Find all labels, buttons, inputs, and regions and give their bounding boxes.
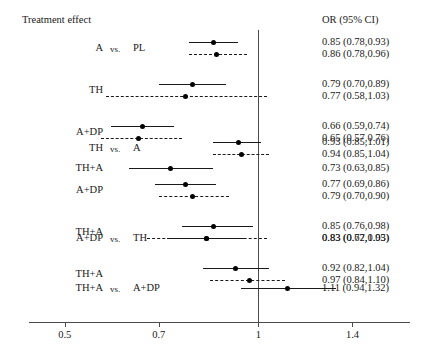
comparator-name: TH	[133, 232, 147, 243]
x-tick-label-1.4: 1.4	[346, 329, 359, 340]
treatment-name: TH+A	[0, 162, 103, 173]
or-ci-value: 0.79 (0.70,0.90)	[322, 190, 389, 201]
point-estimate-marker	[239, 152, 244, 157]
comparator-name: PL	[133, 42, 145, 53]
or-ci-value: 0.86 (0.78,0.96)	[322, 48, 389, 59]
x-tick-label-0.5: 0.5	[58, 329, 71, 340]
row-label-a-dp: A+DPvs.TH	[0, 232, 160, 245]
point-estimate-marker	[168, 166, 173, 171]
x-tick-1	[258, 322, 259, 327]
point-estimate-marker	[190, 194, 195, 199]
versus-text: vs.	[110, 44, 120, 54]
point-estimate-marker	[211, 224, 216, 229]
row-label-th-a: TH+Avs.A+DP	[0, 282, 160, 295]
point-estimate-marker	[183, 182, 188, 187]
or-ci-value: 0.85 (0.78,0.93)	[322, 36, 389, 47]
treatment-name: A	[0, 42, 103, 53]
row-label-a: Avs.PL	[0, 42, 160, 55]
or-ci-value: 0.79 (0.70,0.89)	[322, 78, 389, 89]
column-header-or-ci: OR (95% CI)	[322, 14, 379, 25]
or-ci-value: 0.94 (0.85,1.04)	[322, 148, 389, 159]
x-tick-0.5	[65, 322, 66, 327]
row-label-a-dp: A+DP	[0, 184, 160, 197]
ci-bar-dashed	[101, 138, 181, 139]
treatment-name: A+DP	[0, 184, 103, 195]
treatment-name: TH+A	[0, 268, 103, 279]
forest-plot: Treatment effect OR (95% CI) Avs.PL0.85 …	[0, 0, 429, 357]
versus-text: vs.	[110, 234, 120, 244]
or-ci-value: 1.11 (0.94,1.32)	[322, 282, 389, 293]
or-ci-value: 0.77 (0.69,0.86)	[322, 178, 389, 189]
versus-text: vs.	[110, 144, 120, 154]
x-tick-1.4	[352, 322, 353, 327]
point-estimate-marker	[233, 266, 238, 271]
treatment-name: TH	[0, 142, 103, 153]
point-estimate-marker	[190, 82, 195, 87]
null-reference-line	[258, 30, 259, 327]
treatment-name: A+DP	[0, 232, 103, 243]
comparator-name: A+DP	[133, 282, 160, 293]
ci-bar-solid	[182, 226, 253, 227]
point-estimate-marker	[140, 124, 145, 129]
or-ci-value: 0.83 (0.72,0.95)	[322, 232, 389, 243]
comparator-name: A	[133, 142, 141, 153]
or-ci-value: 0.66 (0.59,0.74)	[322, 120, 389, 131]
point-estimate-marker	[183, 94, 188, 99]
or-ci-value: 0.92 (0.82,1.04)	[322, 262, 389, 273]
point-estimate-marker	[236, 140, 241, 145]
point-estimate-marker	[204, 236, 209, 241]
or-ci-value: 0.77 (0.58,1.03)	[322, 90, 389, 101]
point-estimate-marker	[214, 52, 219, 57]
treatment-name: TH+A	[0, 282, 103, 293]
column-header-treatment-effect: Treatment effect	[22, 14, 91, 25]
point-estimate-marker	[211, 40, 216, 45]
point-estimate-marker	[285, 286, 290, 291]
or-ci-value: 0.93 (0.85,1.01)	[322, 136, 389, 147]
x-tick-label-0.7: 0.7	[152, 329, 165, 340]
point-estimate-marker	[247, 278, 252, 283]
row-label-th: THvs.A	[0, 142, 160, 155]
point-estimate-marker	[136, 136, 141, 141]
x-tick-0.7	[159, 322, 160, 327]
or-ci-value: 0.73 (0.63,0.85)	[322, 162, 389, 173]
treatment-name: TH	[0, 84, 103, 95]
row-label-th-a: TH+A	[0, 268, 160, 281]
treatment-name: A+DP	[0, 126, 103, 137]
or-ci-value: 0.85 (0.76,0.98)	[322, 220, 389, 231]
x-tick-label-1: 1	[256, 329, 261, 340]
versus-text: vs.	[110, 284, 120, 294]
